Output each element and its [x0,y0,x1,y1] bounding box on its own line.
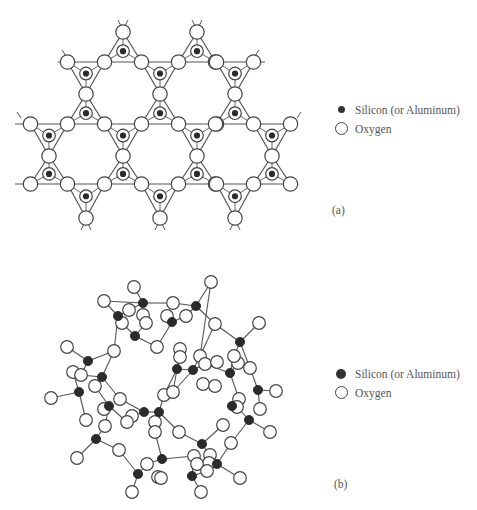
silicon-atom [130,331,139,340]
silicon-atom [157,70,163,76]
oxygen-atom [254,403,267,416]
oxygen-atom [113,444,126,457]
silicon-atom [172,364,181,373]
oxygen-atom [217,419,230,432]
panel-label-b: (b) [334,478,347,490]
silicon-atom [157,193,163,199]
silicon-atom [235,337,244,346]
silicon-atom [187,471,196,480]
silicon-atom [232,70,238,76]
oxygen-atom [264,426,277,439]
oxygen-atom [128,281,141,294]
legend-item-oxygen: Oxygen [333,383,460,402]
oxygen-atom [60,177,74,191]
oxygen-atom [190,149,204,163]
legend-item-silicon: Silicon (or Aluminum) [333,100,460,119]
oxygen-atom [180,310,193,323]
legend-label: Silicon (or Aluminum) [355,368,460,380]
silicon-atom [83,193,89,199]
oxygen-circle-icon [333,122,349,135]
silicon-dot-icon [333,106,349,113]
silicon-atom [227,401,236,410]
oxygen-atom [155,472,168,485]
oxygen-atom [134,117,148,131]
oxygen-atom [171,177,185,191]
silicon-atom [253,385,262,394]
oxygen-atom [173,426,186,439]
silicon-atom [139,407,148,416]
oxygen-atom [89,380,102,393]
silicon-atom [157,454,166,463]
legend-a: Silicon (or Aluminum) Oxygen [333,100,460,138]
oxygen-atom [60,55,74,69]
silicon-atom [197,439,206,448]
oxygen-atom [244,362,257,375]
oxygen-atom [167,297,180,310]
oxygen-atom [42,149,56,163]
oxygen-atom [199,358,212,371]
silicon-atom [194,132,200,138]
oxygen-atom [71,452,84,465]
oxygen-atom [23,117,37,131]
oxygen-atom [228,87,242,101]
silicon-atom [188,365,197,374]
oxygen-atom [134,177,148,191]
oxygen-atom [167,386,180,399]
oxygen-atom [228,211,242,225]
oxygen-atom [61,341,74,354]
legend-b: Silicon (or Aluminum) Oxygen [333,364,460,402]
silicon-atom [232,110,238,116]
legend-label: Oxygen [355,123,391,135]
silicon-atom [83,110,89,116]
oxygen-atom [97,117,111,131]
oxygen-atom [116,149,130,163]
silicon-atom [113,311,122,320]
silicon-atom [191,301,200,310]
oxygen-atom [97,55,111,69]
oxygen-atom [209,177,223,191]
oxygen-atom [253,317,266,330]
oxygen-atom [197,378,210,391]
silicon-atom [83,70,89,76]
silicon-atom [46,171,52,177]
silicon-atom [91,434,100,443]
oxygen-atom [174,351,187,364]
legend-item-silicon: Silicon (or Aluminum) [333,364,460,383]
panel-a-silicate-sheet [15,20,301,230]
oxygen-atom [141,458,154,471]
silicon-atom [133,469,142,478]
silicon-atom [83,356,92,365]
oxygen-atom [201,465,214,478]
silicon-atom [167,317,176,326]
silicon-atom [97,372,106,381]
silicon-atom [104,401,113,410]
legend-label: Silicon (or Aluminum) [355,104,460,116]
silicon-atom [157,110,163,116]
oxygen-atom [211,356,224,369]
silicon-atom [212,459,221,468]
oxygen-atom [108,345,121,358]
silicon-atom [46,132,52,138]
oxygen-atom [45,392,58,405]
silicon-atom [194,171,200,177]
oxygen-atom [209,380,222,393]
oxygen-atom [209,318,222,331]
oxygen-atom [97,177,111,191]
oxygen-atom [265,149,279,163]
oxygen-atom [283,117,297,131]
oxygen-atom [283,177,297,191]
oxygen-atom [205,276,218,289]
oxygen-atom [23,177,37,191]
oxygen-atom [99,420,112,433]
silicon-dot-icon [333,369,349,379]
oxygen-atom [209,55,223,69]
figure-canvas [0,0,477,510]
silicon-atom [244,415,253,424]
oxygen-atom [98,295,111,308]
oxygen-atom [234,472,247,485]
oxygen-atom [114,393,127,406]
oxygen-atom [225,437,238,450]
oxygen-circle-icon [333,386,349,399]
oxygen-atom [153,87,167,101]
oxygen-atom [79,87,93,101]
